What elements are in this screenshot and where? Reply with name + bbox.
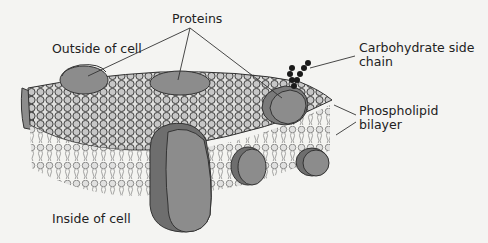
label-proteins: Proteins [172, 12, 222, 26]
label-phospholipid-line1: Phospholipid [359, 104, 438, 118]
label-carbohydrate-line2: chain [359, 55, 393, 69]
label-carbohydrate-line1: Carbohydrate side [359, 41, 474, 55]
transmembrane-protein-small-1 [231, 147, 266, 185]
transmembrane-protein-small-2 [296, 148, 329, 176]
label-inside-of-cell: Inside of cell [52, 212, 131, 226]
transmembrane-protein-large [150, 123, 211, 232]
membrane-illustration [0, 0, 488, 243]
glycoprotein-right [262, 86, 308, 125]
peripheral-protein-left [60, 65, 108, 94]
surface-protein-middle [150, 71, 210, 95]
label-phospholipid-line2: bilayer [359, 118, 402, 132]
cell-membrane-diagram: Proteins Outside of cell Carbohydrate si… [0, 0, 488, 243]
label-outside-of-cell: Outside of cell [52, 42, 142, 56]
